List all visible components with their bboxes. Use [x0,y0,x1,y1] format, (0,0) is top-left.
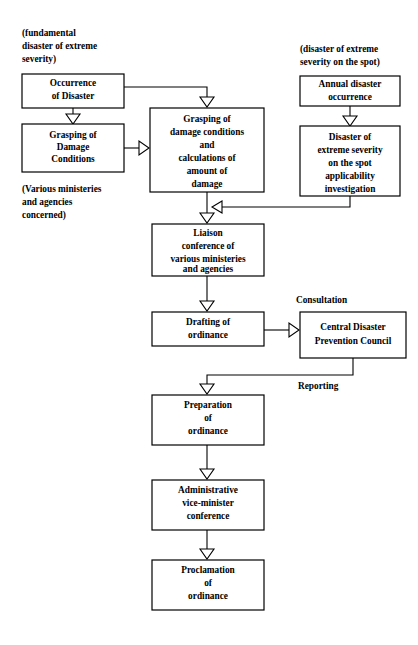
arrowhead-right-to-central-box [139,141,149,155]
box-grasping-of-damage-conditions-line-2: Conditions [51,154,95,164]
box-preparation-of-ordinance-line-0: Preparation [184,400,233,410]
node-grasping-of-damage-conditions[interactable]: Grasping of Damage Conditions [22,124,124,172]
arrowhead-down-to-vice-minister [200,469,214,479]
box-liaison-conference-line-2: various ministeries [170,254,246,264]
arrowhead-down-to-central-box [200,97,214,107]
box-disaster-extreme-severity-investigation-line-4: investigation [325,184,376,194]
box-central-disaster-prevention-council-line-0: Central Disaster [320,322,385,332]
box-disaster-extreme-severity-investigation-line-1: extreme severity [317,145,382,155]
box-grasping-and-calculations-line-0: Grasping of [183,114,231,124]
edge-label-reporting: Reporting [298,381,339,391]
box-proclamation-of-ordinance-line-0: Proclamation [181,565,235,575]
box-grasping-and-calculations-line-3: calculations of [178,153,236,163]
arrowhead-down-to-liaison [200,213,214,223]
arrowhead-right-to-council [289,323,299,337]
box-central-disaster-prevention-council-line-1: Prevention Council [315,336,392,346]
box-occurrence-of-disaster-line-1: of Disaster [52,91,95,101]
box-grasping-and-calculations-line-1: damage conditions [170,127,245,137]
note-fundamental-line-1: disaster of extreme [22,41,97,51]
connector-investigation-to-liaison-line [221,196,350,207]
node-administrative-vice-minister-conference[interactable]: Administrative vice-minister conference [152,480,264,530]
node-drafting-of-ordinance[interactable]: Drafting of ordinance [152,312,264,346]
arrowhead-down-to-proclamation [200,549,214,559]
node-proclamation-of-ordinance[interactable]: Proclamation of ordinance [152,560,264,610]
boxes-layer: Occurrence of Disaster Grasping of Damag… [22,74,406,610]
box-administrative-vice-minister-conference-line-2: conference [187,511,230,521]
edge-label-consultation: Consultation [296,295,348,305]
arrowhead-down-to-drafting [200,301,214,311]
note-on-the-spot-line-1: severity on the spot) [300,57,380,68]
note-fundamental-disaster-of-extreme-severity: (fundamental disaster of extreme severit… [22,28,97,65]
box-liaison-conference-line-1: conference of [182,241,236,251]
box-disaster-extreme-severity-investigation-line-3: applicability [325,171,375,181]
box-grasping-and-calculations-line-5: damage [192,179,223,189]
box-grasping-of-damage-conditions-line-0: Grasping of [49,130,97,140]
box-preparation-of-ordinance-line-2: ordinance [188,426,228,436]
node-liaison-conference[interactable]: Liaison conference of various ministerie… [152,224,264,276]
node-occurrence-of-disaster[interactable]: Occurrence of Disaster [22,74,124,108]
connector-occurrence-to-central-box [124,87,207,98]
box-proclamation-of-ordinance-line-1: of [204,578,213,588]
note-various-ministries-line-1: and agencies [22,197,73,207]
note-various-ministries-line-2: concerned) [22,210,66,221]
box-liaison-conference-line-0: Liaison [193,228,223,238]
box-central-disaster-prevention-council-rect [300,312,406,358]
note-various-ministries-line-0: (Various ministeries [22,184,102,195]
arrowhead-down-to-investigation [343,116,357,126]
note-fundamental-line-2: severity) [22,54,56,65]
box-administrative-vice-minister-conference-line-0: Administrative [178,485,238,495]
box-drafting-of-ordinance-line-0: Drafting of [186,317,231,327]
box-occurrence-of-disaster-line-0: Occurrence [50,78,96,88]
arrowhead-down-to-grasping-damage [66,114,80,124]
node-preparation-of-ordinance[interactable]: Preparation of ordinance [152,395,264,445]
box-proclamation-of-ordinance-line-2: ordinance [188,591,228,601]
arrowhead-down-to-preparation [200,384,214,394]
box-grasping-and-calculations-line-2: and [200,140,216,150]
box-disaster-extreme-severity-investigation-line-0: Disaster of [329,132,372,142]
box-disaster-extreme-severity-investigation-line-2: on the spot [328,158,372,168]
box-grasping-of-damage-conditions-line-1: Damage [57,142,90,152]
node-central-disaster-prevention-council[interactable]: Central Disaster Prevention Council [300,312,406,358]
box-preparation-of-ordinance-line-1: of [204,413,213,423]
note-disaster-of-extreme-severity-on-the-spot: (disaster of extreme severity on the spo… [300,44,380,68]
node-grasping-and-calculations[interactable]: Grasping of damage conditions and calcul… [150,108,264,192]
box-annual-disaster-occurrence-line-0: Annual disaster [319,79,382,89]
flowchart-page: Occurrence of Disaster Grasping of Damag… [0,0,418,645]
box-liaison-conference-line-3: and agencies [183,264,234,274]
node-annual-disaster-occurrence[interactable]: Annual disaster occurrence [300,76,400,106]
box-annual-disaster-occurrence-line-1: occurrence [328,92,372,102]
note-various-ministries-and-agencies-concerned: (Various ministeries and agencies concer… [22,184,102,221]
note-on-the-spot-line-0: (disaster of extreme [300,44,378,55]
box-grasping-and-calculations-line-4: amount of [187,166,228,176]
arrowhead-left-to-liaison-line [212,201,222,213]
box-administrative-vice-minister-conference-line-1: vice-minister [182,498,234,508]
note-fundamental-line-0: (fundamental [22,28,76,39]
box-drafting-of-ordinance-line-1: ordinance [188,330,228,340]
node-disaster-extreme-severity-investigation[interactable]: Disaster of extreme severity on the spot… [300,126,400,196]
flowchart-canvas: Occurrence of Disaster Grasping of Damag… [0,0,418,645]
